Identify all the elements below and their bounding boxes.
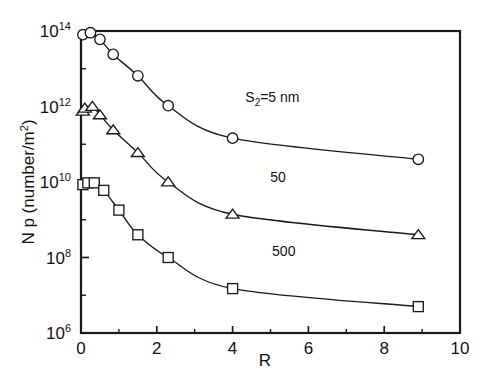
data-point-circle — [133, 71, 143, 81]
series-curve — [83, 182, 418, 306]
x-tick-label: 10 — [451, 339, 470, 358]
x-axis-title: R — [259, 351, 271, 370]
data-point-square — [89, 178, 99, 188]
y-tick-label: 1014 — [40, 20, 71, 41]
data-point-square — [99, 185, 109, 195]
y-tick-label: 106 — [46, 322, 71, 343]
series-label: 50 — [270, 169, 286, 185]
data-point-circle — [95, 34, 105, 44]
series-label: 500 — [272, 243, 296, 259]
data-point-circle — [108, 49, 118, 59]
data-point-circle — [163, 101, 173, 111]
y-tick-label: 1010 — [40, 171, 71, 192]
y-tick-label: 1012 — [40, 96, 71, 117]
x-tick-label: 0 — [76, 339, 85, 358]
series-label: S2=5 nm — [245, 89, 299, 108]
data-point-square — [228, 284, 238, 294]
x-tick-label: 6 — [304, 339, 313, 358]
x-tick-label: 4 — [228, 339, 237, 358]
data-point-square — [133, 230, 143, 240]
log-line-chart: 0246810106108101010121014RN p (number/m2… — [0, 0, 495, 391]
series-curve — [83, 106, 418, 235]
data-point-square — [114, 205, 124, 215]
data-point-circle — [413, 154, 423, 164]
data-point-square — [413, 302, 423, 312]
data-point-triangle — [93, 110, 106, 119]
data-point-circle — [85, 28, 95, 38]
data-point-square — [163, 253, 173, 263]
series-circle: S2=5 nm — [78, 28, 424, 165]
figure-canvas: 0246810106108101010121014RN p (number/m2… — [0, 0, 495, 391]
data-point-triangle — [107, 125, 120, 134]
series-square: 500 — [78, 178, 423, 312]
x-tick-label: 8 — [379, 339, 388, 358]
data-point-circle — [227, 133, 237, 143]
y-axis-title: N p (number/m2) — [18, 119, 38, 244]
series-triangle: 50 — [76, 101, 424, 238]
x-tick-label: 2 — [152, 339, 161, 358]
y-tick-label: 108 — [46, 247, 71, 268]
